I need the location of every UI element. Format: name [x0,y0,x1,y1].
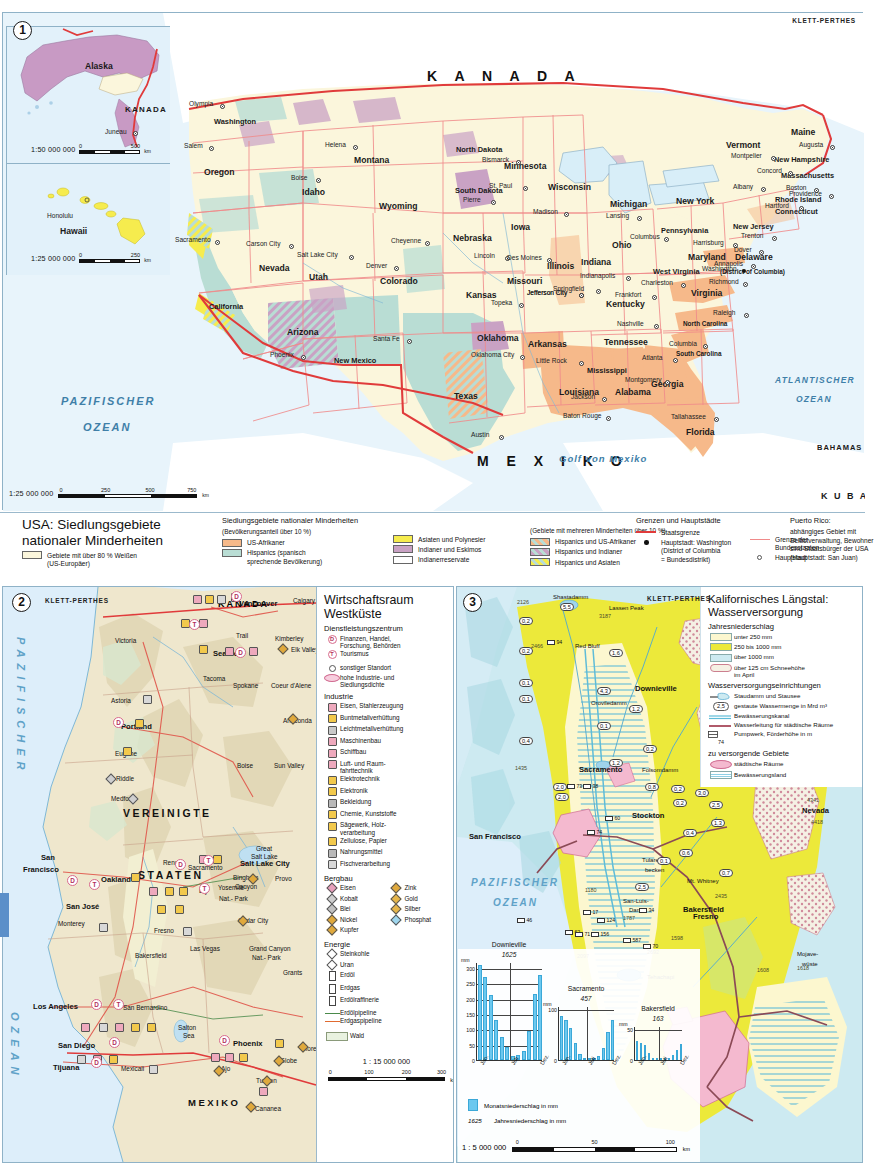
annual-label: Jahresniederschlag in mm [494,1117,566,1124]
industry-symbol [115,1023,124,1032]
state-label-florida: Florida [686,427,715,437]
map2-number: 2 [12,593,31,612]
legend2-item: D Finanzen, Handel, Forschung, Behörden [324,635,449,650]
legend2-label: Wald [350,1032,449,1039]
pipeline-icon [708,721,734,729]
legend-label: Hispanics und US-Afrikaner [555,538,636,547]
state-label-pennsylvania: Pennsylvania [661,226,708,235]
legend3-label: gestaute Wassermenge in Mrd m³ [734,702,859,709]
capital-marker [316,178,321,183]
chart-legend-monthly: Monatsniederschlag in mm [468,1099,558,1111]
chart-bar [522,1051,526,1060]
pump-station: 74 [587,829,602,835]
chart-annual-total: 457 [558,995,614,1002]
reservoir-value: 0,4 [519,737,533,745]
legend-label: Hispanics und Asiaten [555,558,620,567]
chart-legend-annual: 1625 Jahresniederschlag in mm [468,1117,566,1124]
map1-number: 1 [13,21,32,40]
state-label-virginia: Virginia [691,288,722,298]
map2-city-sun-valley: Sun Valley [274,762,304,769]
pump-station: 46 [517,917,532,923]
city-label-salem: Salem [184,142,203,149]
legend3-item: unter 250 mm [708,633,859,643]
service-center-d: D [109,1037,120,1048]
legend3-item: 74 Pumpwerk, Förderhöhe in m [708,730,859,746]
capital-marker [516,160,521,165]
page-side-tab [0,893,9,937]
tick: 750 [187,487,196,493]
inset-map-hawaii[interactable]: Honolulu Hawaii 1:25 000 000 0 250 km [6,163,170,275]
chart-yaxis-unit: mm [543,1001,552,1007]
legend2-label: Leichtmetallverhüttung [340,725,449,732]
pink-gear-icon [328,737,337,746]
reservoir-value: 3,0 [695,789,709,797]
tick: 0 [516,1139,519,1145]
tick: 500 [131,143,140,149]
legend-item: US-Afrikaner [222,539,392,548]
state-label-mississippi: Mississippi [587,366,627,375]
capital-marker [743,282,748,287]
capital-marker [703,344,708,349]
legend2-item: Nickel [324,916,388,926]
legend3-head-supply: zu versorgende Gebiete [708,749,859,758]
tick: 0 [329,1069,332,1075]
legend2-icon-cell [324,971,340,983]
city-label-lincoln: Lincoln [474,252,495,259]
capital-marker [761,187,766,192]
legend3-label: Pumpwerk, Förderhöhe in m [734,730,859,737]
legend3-title-line1: Kalifornisches Längstal: [708,593,828,605]
ocean-label-atlantic: ATLANTISCHER [775,375,855,385]
reservoir-value: 0,1 [519,679,533,687]
elevation-value: 4418 [811,819,823,825]
capital-marker [652,295,657,300]
state-label-indiana: Indiana [581,257,611,267]
legend2-item: Erdgas [324,984,449,996]
legend2-item: Erdölraffinerie [324,996,449,1008]
circle-hauptstadt [750,554,770,562]
city-label-trenton: Trenton [741,232,763,239]
city-label-tallahassee: Tallahassee [671,413,706,420]
state-label-north-carolina: North Carolina [683,320,727,327]
map2-city-boise: Boise [237,762,253,769]
map-usa-minorities[interactable]: Alaska KANADA Juneau 1:50 000 000 0 500 [0,0,865,512]
chart-bar [656,1058,659,1060]
state-label-nevada: Nevada [259,263,290,273]
grey-food-icon [328,849,337,858]
oil-derrick-icon [329,971,336,981]
legend2-label: Maschinenbau [340,737,449,744]
chart-ytick: 200 [462,997,475,1003]
legend1-title-line2: nationaler Minderheiten [22,533,197,549]
monthly-bar-swatch [468,1099,478,1111]
city-label-helena: Helena [325,141,346,148]
diamond-gold-icon [391,883,402,894]
city-label-madison: Madison [533,208,558,215]
state-label-west-virginia: West Virginia [653,267,700,276]
city-label-austin: Austin [471,431,489,438]
chart-title: Sacramento [558,985,614,992]
capital-marker [799,206,804,211]
city-label-columbia: Columbia [669,340,697,347]
legend2-label: Kobalt [340,895,388,902]
pink-hut-icon [328,703,337,712]
map-westcoast-economy[interactable]: 2 KLETT-PERTHES PAZIFISCHER OZEAN KANADA… [2,586,454,1163]
pr-line-3: sind Staatsbürger der USA [790,545,878,554]
map2-city-calgary: Calgary [293,597,315,604]
chart-bar [505,1047,509,1060]
map3-city-san-luis: San-Luis- [623,898,649,904]
legend-item: Staatsgrenze [636,528,746,537]
capital-marker [788,171,793,176]
label-line2: Siedlungsdichte [340,681,384,688]
reservoir-value: 0,2 [643,745,657,753]
chart-bar [676,1050,679,1061]
country-label-mexiko-map2: MEXIKO [188,1097,240,1108]
map-california-water[interactable]: 3 KLETT-PERTHES PAZIFISCHER OZEAN Shasta… [456,586,863,1163]
pink-ship-icon [328,749,337,758]
inset-map-alaska[interactable]: Alaska KANADA Juneau 1:50 000 000 0 500 [6,26,170,163]
publisher-label-3: KLETT-PERTHES [647,595,711,602]
ocean-label-pacific-map2: PAZIFISCHER [15,637,27,776]
legend2-icon-cell [324,725,340,736]
tick: 50 [592,1139,598,1145]
map2-city-nat-park: Nat.- Park [252,954,281,961]
chart-ytick: 50 [462,1043,475,1049]
city-label-washington: Washington [702,265,737,272]
